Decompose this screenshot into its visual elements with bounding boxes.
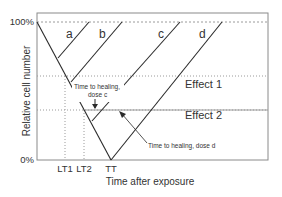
curve-label-c: c <box>158 27 164 41</box>
recovery-line-d <box>111 22 222 160</box>
healing-c-text-2: dose c <box>88 91 108 98</box>
healing-c-text-1: Time to healing, <box>74 83 120 91</box>
y-tick-0: 0% <box>20 154 34 165</box>
recovery-line-b <box>71 22 122 82</box>
healing-d-text: Time to healing, dose d <box>148 142 216 150</box>
curve-label-b: b <box>99 27 106 41</box>
curve-label-a: a <box>66 27 73 41</box>
y-axis-label: Relative cell number <box>21 45 32 136</box>
x-tick-tt: TT <box>105 163 117 174</box>
effect-1-label: Effect 1 <box>185 78 222 90</box>
x-tick-lt1: LT1 <box>57 163 73 174</box>
x-axis-label: Time after exposure <box>106 176 195 187</box>
healing-d-arrow <box>122 114 147 143</box>
y-tick-100: 100% <box>10 16 35 27</box>
arrow-down-icon <box>92 104 98 109</box>
cell-recovery-diagram: a b c d Effect 1 Effect 2 Time to healin… <box>0 0 282 197</box>
recovery-line-a <box>58 22 89 58</box>
curve-label-d: d <box>199 27 206 41</box>
x-tick-lt2: LT2 <box>76 163 92 174</box>
effect-2-label: Effect 2 <box>185 109 222 121</box>
